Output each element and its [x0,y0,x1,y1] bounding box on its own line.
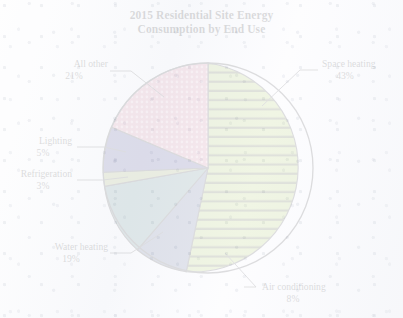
pie-slices [103,63,313,273]
title-line-2: Consumption by End Use [0,22,403,36]
pie-label-refrigeration-name: Refrigeration [0,168,72,180]
pie-label-all-other-name: All other [26,58,108,70]
title-line-1: 2015 Residential Site Energy [0,8,403,22]
pie-label-lighting-name: Lighting [0,135,72,147]
pie-label-refrigeration-value: 3% [0,180,72,192]
pie-label-space-heating-name: Space heating [322,58,402,70]
pie-label-water-heating: Water heating 19% [20,241,108,264]
pie-label-lighting: Lighting 5% [0,135,72,158]
pie-chart [0,0,403,318]
pie-label-all-other-value: 21% [26,70,108,82]
pie-label-refrigeration: Refrigeration 3% [0,168,72,191]
pie-label-all-other: All other 21% [26,58,108,81]
pie-label-water-heating-name: Water heating [20,241,108,253]
pie-label-water-heating-value: 19% [20,253,108,265]
pie-label-air-conditioning-name: Air conditioning [262,281,358,293]
pie-label-space-heating: Space heating 43% [322,58,402,81]
pie-label-lighting-value: 5% [0,147,72,159]
page-title: 2015 Residential Site Energy Consumption… [0,8,403,36]
pie-label-space-heating-value: 43% [322,70,402,82]
pie-label-air-conditioning: Air conditioning 8% [262,281,358,304]
pie-label-air-conditioning-value: 8% [262,293,358,305]
